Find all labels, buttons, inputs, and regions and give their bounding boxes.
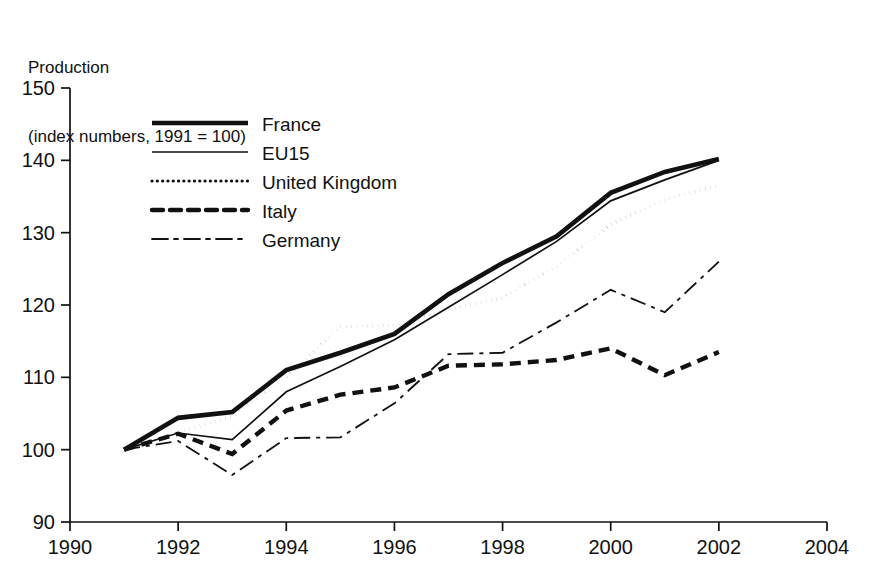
y-tick-label: 150	[22, 77, 55, 99]
x-tick-label: 1990	[48, 536, 93, 558]
legend-label-germany: Germany	[262, 230, 341, 251]
chart-legend: FranceEU15United KingdomItalyGermany	[152, 114, 397, 251]
series-line-united-kingdom	[124, 186, 719, 450]
series-line-germany	[124, 262, 719, 475]
series-line-france	[124, 159, 719, 450]
x-tick-label: 1998	[480, 536, 525, 558]
legend-label-eu15: EU15	[262, 143, 310, 164]
series-line-eu15	[124, 160, 719, 449]
legend-label-italy: Italy	[262, 201, 297, 222]
y-tick-label: 140	[22, 149, 55, 171]
y-tick-label: 100	[22, 439, 55, 461]
data-series-group	[124, 159, 719, 475]
x-tick-label: 1994	[264, 536, 309, 558]
x-tick-label: 1992	[156, 536, 201, 558]
x-tick-label: 1996	[372, 536, 417, 558]
legend-label-france: France	[262, 114, 321, 135]
y-tick-label: 110	[23, 366, 55, 388]
legend-label-united-kingdom: United Kingdom	[262, 172, 397, 193]
y-axis-tick-group: 90100110120130140150	[22, 77, 70, 533]
plot-area: 90100110120130140150 1990199219941996199…	[0, 0, 873, 576]
x-tick-label: 2004	[805, 536, 850, 558]
series-line-italy	[124, 348, 719, 454]
x-tick-label: 2002	[697, 536, 742, 558]
y-tick-label: 120	[22, 294, 55, 316]
x-axis-tick-group: 19901992199419961998200020022004	[48, 522, 850, 558]
y-tick-label: 90	[33, 511, 55, 533]
x-tick-label: 2000	[588, 536, 633, 558]
y-tick-label: 130	[22, 222, 55, 244]
production-index-line-chart: Production (index numbers, 1991 = 100) 9…	[0, 0, 873, 576]
